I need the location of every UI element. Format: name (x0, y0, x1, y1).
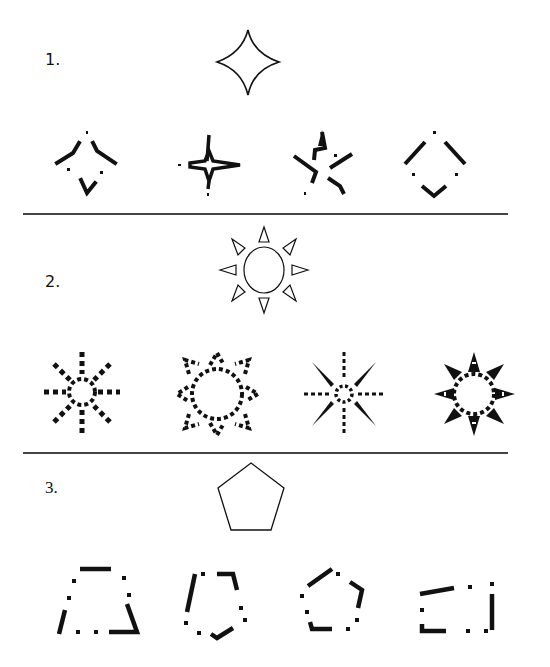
problem-1-label: 1. (45, 50, 60, 69)
problem-1-option-c-icon[interactable] (290, 128, 360, 200)
problem-3-option-a-icon[interactable] (55, 564, 145, 636)
problem-1-option-a-icon[interactable] (55, 125, 125, 200)
problem-2-option-a-icon[interactable] (42, 350, 122, 435)
problem-3-option-d-icon[interactable] (418, 580, 498, 640)
problem-2-target-sun-icon (218, 222, 310, 318)
problem-3-target-pentagon-icon (215, 460, 287, 532)
problem-2-option-d-icon[interactable] (432, 350, 517, 438)
problem-1-target-four-point-star-icon (215, 28, 285, 98)
section-divider-2 (23, 452, 508, 454)
problem-1-option-d-icon[interactable] (400, 128, 470, 200)
problem-2-option-b-icon[interactable] (175, 350, 260, 438)
problem-2-label: 2. (45, 272, 60, 291)
problem-3-option-b-icon[interactable] (181, 568, 251, 643)
problem-1-option-b-icon[interactable] (175, 133, 250, 198)
problem-3-label: 3. (45, 478, 58, 498)
problem-3-option-c-icon[interactable] (298, 564, 370, 636)
section-divider-1 (23, 213, 508, 215)
problem-2-option-c-icon[interactable] (302, 350, 387, 438)
